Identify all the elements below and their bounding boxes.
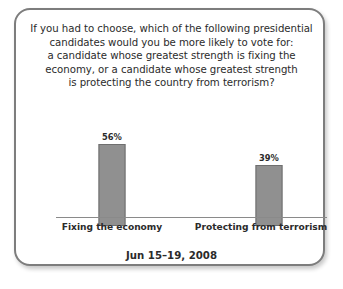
bar-value-fixing-the-economy: 56% [102, 132, 122, 142]
category-label-fixing-the-economy: Fixing the economy [42, 222, 182, 232]
bar-rect-fixing-the-economy [99, 144, 126, 226]
bar-chart-plot: 56% 39% [16, 106, 323, 226]
question-line-3: a candidate whose greatest strength is f… [26, 49, 317, 63]
poll-chart-card: If you had to choose, which of the follo… [14, 8, 325, 266]
question-line-5: is protecting the country from terrorism… [26, 76, 317, 90]
axis-baseline [56, 217, 327, 218]
category-label-protecting-from-terrorism: Protecting from terrorism [191, 222, 331, 232]
question-line-4: economy, or a candidate whose greatest s… [26, 63, 317, 77]
date-footer: Jun 15–19, 2008 [26, 250, 317, 261]
question-title: If you had to choose, which of the follo… [26, 22, 317, 90]
bar-value-protecting-from-terrorism: 39% [259, 153, 279, 163]
question-line-2: candidates would you be more likely to v… [26, 36, 317, 50]
question-line-1: If you had to choose, which of the follo… [26, 22, 317, 36]
